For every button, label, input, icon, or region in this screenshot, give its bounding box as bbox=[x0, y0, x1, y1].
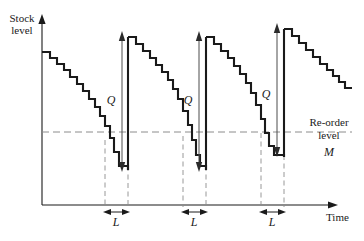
y-axis-label-line2: level bbox=[2, 24, 42, 36]
q-label-2: Q bbox=[181, 93, 195, 108]
l-label-1: L bbox=[109, 215, 123, 230]
x-axis-arrowhead bbox=[328, 201, 338, 208]
q-label-1: Q bbox=[104, 93, 118, 108]
reorder-level-label-line1: Re-order bbox=[296, 116, 362, 129]
y-axis-label: Stock level bbox=[2, 12, 42, 36]
y-axis-label-line1: Stock bbox=[2, 12, 42, 24]
stock-level-cycle-1 bbox=[42, 52, 128, 170]
lead-time-drop-lines-group bbox=[105, 133, 284, 207]
stock-level-cycle-4 bbox=[284, 29, 352, 88]
reorder-level-label-line2: level bbox=[296, 129, 362, 142]
q-arrow-3 bbox=[274, 23, 280, 157]
q-arrow-1 bbox=[119, 31, 125, 172]
reorder-level-label: Re-order level bbox=[296, 116, 362, 142]
figure-canvas: Stock level Time Re-order level M Q Q Q … bbox=[0, 0, 364, 241]
reorder-level-symbol-M: M bbox=[296, 145, 362, 160]
q-label-3: Q bbox=[259, 87, 273, 102]
l-label-3: L bbox=[265, 215, 279, 230]
l-label-2: L bbox=[187, 215, 201, 230]
x-axis-label: Time bbox=[326, 211, 364, 223]
